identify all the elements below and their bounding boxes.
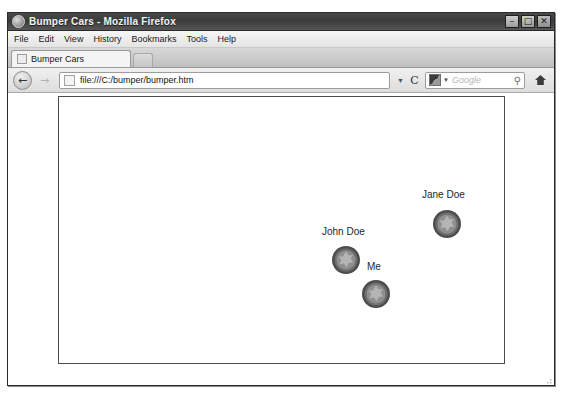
reload-icon[interactable]: C [407,74,422,87]
navigation-toolbar: ← → file:///C:/bumper/bumper.htm ▼ C ▼ G… [8,68,554,93]
page-favicon-icon [64,75,75,86]
menu-item-view[interactable]: View [64,34,83,44]
car-label: Me [367,261,381,272]
car-label: Jane Doe [422,189,465,200]
forward-icon[interactable]: → [35,71,54,90]
bumper-cars-playfield[interactable]: Jane DoeJohn DoeMe [58,96,505,364]
home-icon[interactable] [531,71,549,89]
tab-label: Bumper Cars [31,54,84,64]
menu-item-history[interactable]: History [93,34,121,44]
status-bar [8,375,554,386]
tab-favicon-icon [17,54,27,64]
url-text: file:///C:/bumper/bumper.htm [80,75,385,85]
tab-bumper-cars[interactable]: Bumper Cars [11,50,131,67]
menu-item-help[interactable]: Help [217,34,236,44]
resize-grip-icon[interactable] [543,378,553,386]
window-controls: – □ ✕ [505,15,551,28]
menu-item-file[interactable]: File [14,34,29,44]
bumper-car-icon[interactable] [432,209,462,239]
page-content: Jane DoeJohn DoeMe [8,93,554,386]
chevron-down-icon[interactable]: ▼ [443,77,449,83]
tab-strip: Bumper Cars [8,48,554,68]
close-button[interactable]: ✕ [537,15,551,28]
menu-item-bookmarks[interactable]: Bookmarks [131,34,176,44]
bumper-car-icon[interactable] [361,279,391,309]
search-icon[interactable]: ⚲ [514,75,521,86]
firefox-icon [12,15,25,28]
back-icon[interactable]: ← [13,71,32,90]
browser-window: Bumper Cars - Mozilla Firefox – □ ✕ File… [7,12,555,386]
search-input[interactable]: Google [452,75,514,85]
car-label: John Doe [322,226,365,237]
bumper-car-icon[interactable] [331,245,361,275]
window-title: Bumper Cars - Mozilla Firefox [29,16,176,27]
menu-item-edit[interactable]: Edit [39,34,55,44]
chevron-down-icon[interactable]: ▼ [393,77,404,84]
menu-bar: File Edit View History Bookmarks Tools H… [8,31,554,48]
search-bar[interactable]: ▼ Google ⚲ [425,72,525,89]
minimize-button[interactable]: – [505,15,519,28]
new-tab-button[interactable] [133,53,153,67]
menu-item-tools[interactable]: Tools [186,34,207,44]
address-bar[interactable]: file:///C:/bumper/bumper.htm [59,72,390,89]
title-bar: Bumper Cars - Mozilla Firefox – □ ✕ [8,13,554,31]
search-engine-icon[interactable] [429,74,441,86]
maximize-button[interactable]: □ [521,15,535,28]
